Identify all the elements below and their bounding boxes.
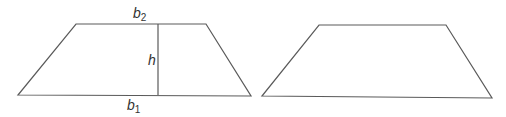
trapezoid-labeled: b2 b1 h: [18, 5, 251, 115]
top-base-label: b2: [133, 5, 147, 23]
trapezoid-diagram: b2 b1 h: [0, 0, 506, 117]
trapezoid-plain: [262, 25, 492, 98]
trapezoid-outline-labeled: [18, 24, 251, 96]
bottom-base-label: b1: [127, 97, 141, 115]
trapezoid-outline-plain: [262, 25, 492, 98]
height-label: h: [148, 52, 156, 68]
